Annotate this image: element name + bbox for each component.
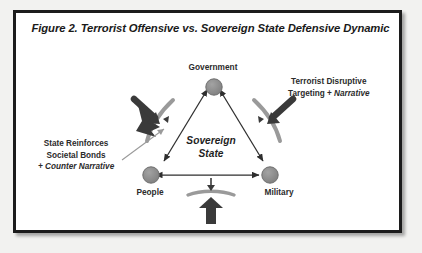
center-label-line1: Sovereign: [161, 135, 261, 148]
deflect-arrowhead-left: [163, 116, 169, 123]
diagram-canvas: [16, 13, 405, 236]
annotation-right: Terrorist Disruptive Targeting + Narrati…: [288, 76, 370, 99]
annotation-right-line2-italic: Narrative: [334, 89, 370, 98]
node-label-government: Government: [168, 62, 258, 72]
annotation-right-line2: Targeting + Narrative: [288, 88, 370, 100]
node-military: [262, 167, 278, 183]
annotation-right-line1: Terrorist Disruptive: [288, 76, 370, 88]
attack-arrowhead-bottom: [199, 197, 223, 208]
leader-line-left: [122, 129, 164, 160]
annotation-left: State Reinforces Societal Bonds + Counte…: [38, 138, 114, 173]
attack-arrow-bottom-shaft: [206, 207, 216, 224]
attack-arrow-right-shaft: [272, 99, 293, 118]
center-label: Sovereign State: [161, 135, 261, 160]
annotation-left-line2: Societal Bonds: [38, 150, 114, 162]
node-label-military: Military: [249, 187, 309, 197]
shield-arc-bottom: [188, 191, 234, 195]
figure-panel: Figure 2. Terrorist Offensive vs. Sovere…: [13, 10, 402, 233]
node-people: [143, 167, 159, 183]
annotation-right-line2-plain: Targeting +: [288, 89, 334, 98]
deflect-arrowhead-right: [258, 116, 264, 123]
center-label-line2: State: [161, 148, 261, 161]
node-government: [206, 79, 222, 95]
annotation-left-line3: + Counter Narrative: [38, 161, 114, 173]
node-label-people: People: [120, 187, 180, 197]
annotation-left-line1: State Reinforces: [38, 138, 114, 150]
